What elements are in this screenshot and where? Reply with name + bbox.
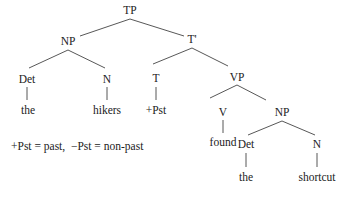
- leaf-shortcut: shortcut: [298, 171, 336, 183]
- node-tp: TP: [123, 4, 136, 16]
- node-v: V: [219, 106, 228, 118]
- node-np-object: NP: [275, 106, 290, 118]
- tense-legend: +Pst = past, −Pst = non-past: [11, 140, 143, 152]
- node-n-object: N: [313, 138, 322, 150]
- node-det-subject: Det: [19, 73, 36, 85]
- leaf-hikers: hikers: [93, 104, 122, 116]
- leaf-the-1: the: [21, 104, 35, 116]
- edge-tp-tbar: [130, 19, 184, 36]
- node-tbar: T': [187, 33, 196, 45]
- syntax-tree: TP NP T' Det N T VP the hikers +Pst V NP…: [0, 0, 350, 198]
- edge-np-n: [68, 50, 105, 68]
- edge-np-n-obj: [282, 121, 315, 135]
- node-n-subject: N: [103, 73, 112, 85]
- edge-np-det: [29, 50, 68, 68]
- edge-tp-np: [80, 19, 130, 36]
- leaf-tense-pst: +Pst: [146, 104, 167, 116]
- edge-vp-np: [237, 85, 266, 100]
- edge-vp-v: [210, 85, 237, 98]
- node-vp: VP: [230, 71, 245, 83]
- edge-tbar-vp: [192, 48, 228, 66]
- edge-tbar-t: [153, 48, 192, 64]
- node-np-subject: NP: [61, 35, 76, 47]
- tree-labels: TP NP T' Det N T VP the hikers +Pst V NP…: [19, 4, 337, 183]
- node-det-object: Det: [238, 138, 255, 150]
- edge-np-det-obj: [248, 121, 282, 135]
- leaf-the-2: the: [239, 171, 253, 183]
- leaf-found: found: [210, 136, 237, 148]
- node-t: T: [152, 72, 159, 84]
